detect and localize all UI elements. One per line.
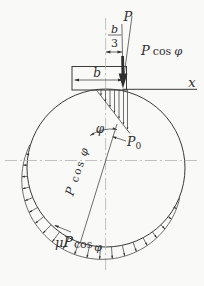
phi-symbol: φ bbox=[76, 144, 91, 157]
p-symbol: P bbox=[62, 183, 79, 198]
force-p-action-line bbox=[123, 16, 132, 82]
b3-dim-arrow-right bbox=[118, 51, 123, 54]
phi-symbol: φ bbox=[174, 44, 182, 58]
pressure-arrow-head bbox=[145, 242, 147, 245]
pressure-arrow-head bbox=[22, 187, 25, 189]
pressure-arrow-head bbox=[25, 199, 28, 201]
b3-dim-arrow-left bbox=[106, 51, 111, 54]
cos-symbol: cos bbox=[153, 45, 172, 58]
force-p-label: P bbox=[123, 9, 133, 24]
cos-symbol: cos bbox=[68, 158, 87, 184]
p-cos-phi-label: Pcosφ bbox=[140, 43, 182, 58]
pressure-arrow-head bbox=[123, 253, 125, 256]
pressure-arrow-head bbox=[111, 256, 113, 259]
p-symbol: P bbox=[140, 43, 150, 58]
pressure-arrow-head bbox=[135, 249, 137, 252]
p0-subscript: 0 bbox=[135, 141, 141, 151]
force-diagram-svg: x P Pcosφ b 3 b P0 φ Pcosφ μPcosφ bbox=[0, 0, 204, 286]
p-cos-phi-radial-label: Pcosφ bbox=[62, 144, 91, 198]
phi-angle-label: φ bbox=[96, 122, 105, 136]
x-axis-label: x bbox=[188, 75, 196, 90]
triangle-load-arrows bbox=[100, 90, 128, 130]
mu-symbol: μ bbox=[55, 235, 63, 250]
p0-label: P0 bbox=[126, 134, 141, 151]
b-dimension-label: b bbox=[93, 66, 101, 80]
phi-arc-arrow-right bbox=[113, 127, 118, 129]
mu-p-cos-phi-label: μPcosφ bbox=[55, 234, 102, 254]
diagram-canvas: x P Pcosφ b 3 b P0 φ Pcosφ μPcosφ bbox=[0, 0, 204, 286]
pressure-arrow-head bbox=[87, 255, 89, 258]
phi-symbol: φ bbox=[94, 241, 102, 254]
b3-numerator: b bbox=[111, 23, 118, 36]
cos-symbol: cos bbox=[74, 238, 93, 251]
pressure-arrow-head bbox=[75, 251, 77, 254]
resultant-normal-line bbox=[81, 124, 118, 242]
b-dim-arrow-left bbox=[75, 79, 80, 82]
b3-denominator: 3 bbox=[111, 37, 118, 50]
p-symbol: P bbox=[62, 234, 73, 250]
